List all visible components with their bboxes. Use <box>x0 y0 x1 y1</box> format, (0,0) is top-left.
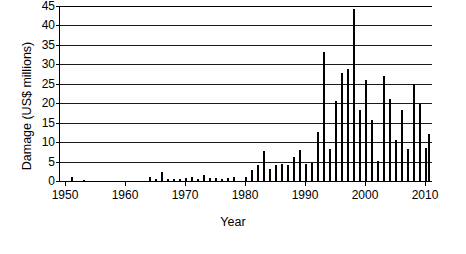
bar <box>317 132 320 181</box>
bar <box>419 104 422 181</box>
bar <box>149 177 152 181</box>
bar <box>257 165 260 181</box>
x-axis-tick-label: 2000 <box>345 188 385 202</box>
y-axis-tick-label: 45 <box>15 0 55 12</box>
bar <box>263 151 266 181</box>
bar <box>341 73 344 181</box>
bar <box>389 99 392 181</box>
x-axis-tick <box>125 182 126 186</box>
bar <box>203 175 206 181</box>
bar <box>335 101 338 182</box>
bar <box>329 149 332 181</box>
y-axis-tick-label: 25 <box>15 78 55 90</box>
bar <box>287 165 290 181</box>
y-axis-tick-label: 5 <box>15 156 55 168</box>
bar <box>281 164 284 181</box>
x-axis-tick-label: 1990 <box>285 188 325 202</box>
x-axis-tick-label: 1960 <box>105 188 145 202</box>
bar <box>185 178 188 182</box>
y-axis-tick-label: 15 <box>15 117 55 129</box>
x-axis-tick <box>425 182 426 186</box>
bar <box>215 178 218 181</box>
bar <box>323 52 326 181</box>
bar <box>275 165 278 181</box>
bar <box>377 161 380 181</box>
y-axis-tick-label: 0 <box>15 175 55 187</box>
bar <box>209 178 212 181</box>
bar <box>167 179 170 181</box>
bar <box>245 177 248 181</box>
x-axis-tick-label: 1980 <box>225 188 265 202</box>
y-axis-tick-label: 10 <box>15 136 55 148</box>
bar <box>299 150 302 181</box>
bar <box>305 164 308 181</box>
x-axis-tick-label: 1970 <box>165 188 205 202</box>
bar <box>71 177 74 181</box>
x-axis-tick-label: 1950 <box>45 188 85 202</box>
x-axis-tick <box>65 182 66 186</box>
bar <box>227 178 230 181</box>
bar <box>161 172 164 181</box>
bar <box>197 179 200 181</box>
bar <box>221 179 224 181</box>
x-axis-tick-labels: 1950196019701980199020002010 <box>0 188 466 204</box>
bar <box>155 179 158 181</box>
y-axis-tick-label: 40 <box>15 19 55 31</box>
bar <box>401 110 404 181</box>
bar <box>191 177 194 181</box>
bar <box>179 179 182 181</box>
y-axis-tick-label: 35 <box>15 39 55 51</box>
x-axis-tick <box>245 182 246 186</box>
bar-series <box>60 6 432 181</box>
bar <box>371 120 374 181</box>
bar <box>428 134 431 181</box>
plot-area <box>59 6 432 182</box>
y-axis-tick-labels: 051015202530354045 <box>10 0 55 200</box>
bar <box>407 149 410 181</box>
bar <box>251 170 254 181</box>
bar <box>233 177 236 181</box>
bar <box>383 76 386 181</box>
bar <box>395 140 398 181</box>
bar <box>269 169 272 181</box>
bar <box>173 179 176 181</box>
y-axis-tick-label: 20 <box>15 97 55 109</box>
bar <box>353 9 356 181</box>
x-axis-title: Year <box>0 215 466 229</box>
bar <box>347 69 350 181</box>
x-axis-tick <box>305 182 306 186</box>
x-axis-tick <box>185 182 186 186</box>
bar <box>413 84 416 181</box>
damage-by-year-chart: Damage (US$ millions) 051015202530354045… <box>0 0 466 254</box>
x-axis-tick <box>365 182 366 186</box>
bar <box>83 180 86 181</box>
bar <box>293 157 296 181</box>
bar <box>359 110 362 181</box>
y-axis-tick-label: 30 <box>15 58 55 70</box>
bar <box>365 80 368 181</box>
bar <box>311 163 314 181</box>
x-axis-tick-label: 2010 <box>405 188 445 202</box>
